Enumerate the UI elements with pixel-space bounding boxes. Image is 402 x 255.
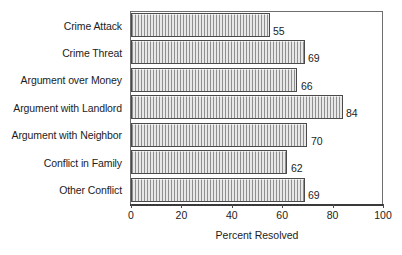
bar-crime-attack xyxy=(131,13,270,37)
bar-argument-with-landlord xyxy=(131,95,343,119)
x-axis-title: Percent Resolved xyxy=(130,229,384,241)
x-tick-label-60: 60 xyxy=(276,209,288,221)
x-tick-80 xyxy=(333,204,334,208)
x-axis-line xyxy=(130,204,384,206)
value-label-argument-over-money: 66 xyxy=(301,81,313,92)
value-label-conflict-in-family: 62 xyxy=(291,163,303,174)
category-axis-labels: Crime Attack Crime Threat Argument over … xyxy=(0,12,126,205)
x-tick-label-80: 80 xyxy=(327,209,339,221)
x-tick-100 xyxy=(383,204,384,208)
x-tick-label-20: 20 xyxy=(176,209,188,221)
value-label-argument-with-landlord: 84 xyxy=(346,108,358,119)
category-label-argument-over-money: Argument over Money xyxy=(0,75,122,86)
bar-chart: Crime Attack Crime Threat Argument over … xyxy=(0,0,402,255)
bar-conflict-in-family xyxy=(131,150,287,174)
value-label-other-conflict: 69 xyxy=(308,190,320,201)
bar-argument-with-neighbor xyxy=(131,123,307,147)
value-label-crime-threat: 69 xyxy=(308,53,320,64)
category-label-crime-attack: Crime Attack xyxy=(0,21,122,32)
x-tick-label-100: 100 xyxy=(374,209,392,221)
x-tick-0 xyxy=(131,204,132,208)
x-tick-label-0: 0 xyxy=(128,209,134,221)
value-label-argument-with-neighbor: 70 xyxy=(311,136,323,147)
category-label-crime-threat: Crime Threat xyxy=(0,48,122,59)
category-label-argument-with-landlord: Argument with Landlord xyxy=(0,103,122,114)
bar-other-conflict xyxy=(131,178,305,202)
value-label-crime-attack: 55 xyxy=(273,26,285,37)
x-tick-20 xyxy=(181,204,182,208)
x-tick-40 xyxy=(232,204,233,208)
x-tick-60 xyxy=(282,204,283,208)
x-tick-label-40: 40 xyxy=(226,209,238,221)
bar-crime-threat xyxy=(131,40,305,64)
bar-argument-over-money xyxy=(131,68,297,92)
category-label-argument-with-neighbor: Argument with Neighbor xyxy=(0,130,122,141)
category-label-conflict-in-family: Conflict in Family xyxy=(0,158,122,169)
category-label-other-conflict: Other Conflict xyxy=(0,185,122,196)
